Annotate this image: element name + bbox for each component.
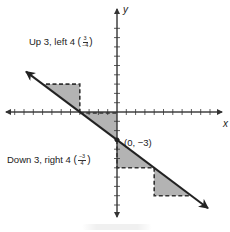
up-left-fraction: 3−4 [82, 36, 88, 48]
intercept-label: (0, −3) [124, 138, 152, 148]
down-right-annotation: Down 3, right 4 (−34) [7, 154, 91, 166]
up-left-annotation: Up 3, left 4 (3−4) [29, 36, 93, 48]
x-axis-label: x [223, 118, 228, 129]
y-intercept-point [115, 138, 120, 143]
up-left-text: Up 3, left 4 [29, 36, 75, 47]
down-right-fraction: −34 [78, 154, 86, 166]
down-right-text: Down 3, right 4 [7, 154, 71, 165]
blurred-caption [82, 224, 152, 230]
y-axis-label: y [123, 4, 128, 15]
